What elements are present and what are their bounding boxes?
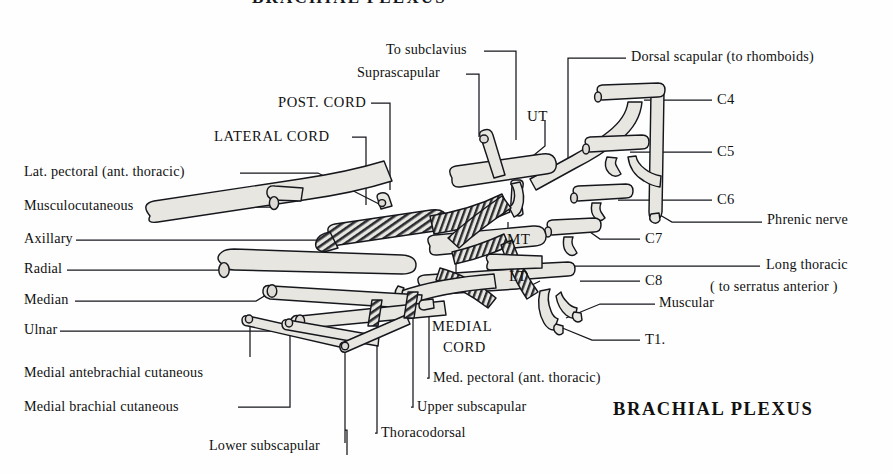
label-lower-trunk: LT — [509, 268, 527, 285]
label-post-cord: POST. CORD — [278, 94, 366, 110]
label-c4: C4 — [717, 91, 734, 107]
label-c7: C7 — [645, 230, 662, 246]
radial-nerve — [218, 249, 416, 274]
label-muscular: Muscular — [659, 295, 714, 311]
label-dorsal-scapular: Dorsal scapular (to rhomboids) — [631, 49, 814, 65]
label-medial-cord-line2: CORD — [443, 339, 486, 355]
musculocutaneous-end — [269, 197, 278, 210]
t1-tip — [554, 324, 563, 335]
label-long-thoracic-line2: ( to serratus anterior ) — [710, 279, 838, 295]
label-suprascapular: Suprascapular — [357, 65, 440, 81]
label-thoracodorsal: Thoracodorsal — [381, 425, 466, 441]
label-upper-subscapular: Upper subscapular — [417, 399, 526, 415]
c7-root — [547, 218, 601, 235]
label-radial: Radial — [24, 261, 62, 277]
label-c6: C6 — [717, 191, 734, 207]
label-to-subclavius: To subclavius — [386, 42, 467, 58]
median-nerve-end — [267, 285, 277, 297]
label-medial-antebrachial-cutaneous: Medial antebrachial cutaneous — [24, 365, 203, 381]
figure-title-main: BRACHIAL PLEXUS — [613, 399, 813, 420]
label-musculocutaneous: Musculocutaneous — [24, 198, 134, 214]
label-axillary: Axillary — [24, 231, 73, 247]
label-c5: C5 — [717, 143, 734, 159]
suprascapular-end — [480, 135, 488, 143]
label-lateral-cord: LATERAL CORD — [214, 128, 330, 144]
label-median: Median — [24, 292, 69, 308]
label-phrenic-nerve: Phrenic nerve — [767, 212, 848, 228]
c5-root-end — [583, 144, 590, 154]
med-pectoral-nerve — [419, 299, 434, 310]
c4-root — [597, 83, 665, 100]
spinal-column-trunk — [649, 86, 664, 220]
c6-root — [573, 184, 633, 201]
c5-root — [585, 135, 649, 152]
label-t1: T1. — [645, 331, 665, 347]
mabc-end — [245, 315, 252, 323]
c5-loop — [605, 157, 621, 176]
brachial-plexus-figure: BRACHIAL PLEXUS To subclavius Suprascapu… — [0, 0, 893, 473]
nerve-structures — [146, 83, 665, 352]
mbc-end — [285, 319, 292, 327]
radial-nerve-end — [219, 263, 229, 278]
c4-root-end — [595, 92, 602, 102]
label-med-pectoral: Med. pectoral (ant. thoracic) — [433, 370, 601, 386]
label-medial-cord-line1: MEDIAL — [432, 318, 492, 334]
label-middle-trunk: MT — [507, 231, 531, 248]
phrenic-tip — [650, 213, 660, 223]
label-upper-trunk: UT — [527, 108, 548, 125]
lower-subscapular-end — [341, 342, 348, 350]
lateral-pectoral-end — [378, 200, 385, 207]
c6-root-end — [571, 193, 578, 203]
label-lat-pectoral: Lat. pectoral (ant. thoracic) — [24, 164, 185, 180]
label-ulnar: Ulnar — [24, 322, 57, 338]
figure-title-top: BRACHIAL PLEXUS — [252, 0, 447, 8]
muscular-tip — [573, 312, 583, 322]
label-lower-subscapular: Lower subscapular — [209, 438, 320, 454]
label-medial-brachial-cutaneous: Medial brachial cutaneous — [24, 399, 179, 415]
label-c8: C8 — [645, 272, 662, 288]
label-long-thoracic-line1: Long thoracic — [766, 257, 848, 273]
c7-loop — [563, 237, 577, 256]
